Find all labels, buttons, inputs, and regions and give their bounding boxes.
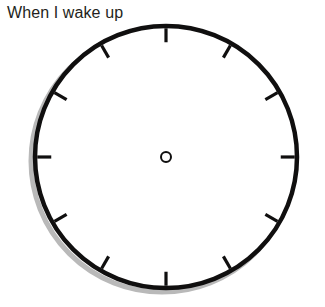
center-hub-ring: [161, 152, 171, 162]
analog-clock-face: [0, 0, 325, 307]
clock-stage: [0, 0, 325, 307]
